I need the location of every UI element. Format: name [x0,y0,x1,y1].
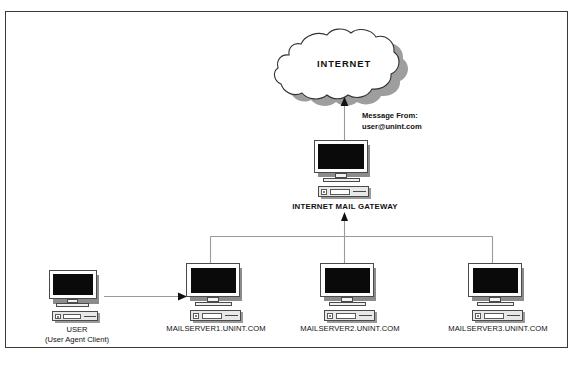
monitor-screen [473,268,518,293]
message-annotation: Message From: user@unint.com [362,110,422,132]
node-internet-mail-gateway [313,140,377,196]
tower-detail-line [353,191,366,192]
message-annotation-line1: Message From: [362,110,422,121]
label-internet-mail-gateway: INTERNET MAIL GATEWAY [277,202,413,212]
monitor-base [329,302,366,306]
tower-detail-line [359,315,372,316]
monitor-screen [325,268,370,293]
computer-tower [472,310,523,321]
monitor-screen [191,268,236,293]
tower-detail-line [84,316,96,317]
message-annotation-line2: user@unint.com [362,121,422,132]
tower-drive-slot [63,314,81,319]
monitor-screen [53,274,93,295]
label-mailserver1: MAILSERVER1.UNINT.COM [157,324,275,333]
node-user [48,270,106,320]
node-mailserver1 [184,263,248,319]
computer-tower [324,310,375,321]
monitor-base [195,302,232,306]
monitor-base [477,302,514,306]
tower-detail-line [225,315,238,316]
tower-power-led [55,314,61,319]
connection-mailserver-bus [211,237,493,266]
monitor-bezel [314,140,368,173]
tower-power-led [193,313,199,319]
label-mailserver2: MAILSERVER2.UNINT.COM [291,324,409,333]
connection-bus-to-gateway [341,212,348,237]
label-user: USER [28,325,126,334]
connection-gateway-to-internet [341,97,349,141]
tower-drive-slot [330,189,350,195]
label-mailserver3: MAILSERVER3.UNINT.COM [439,324,557,333]
tower-detail-line [507,315,520,316]
connection-user-to-mailserver1 [104,293,187,301]
internet-cloud-label: INTERNET [284,58,404,69]
monitor-bezel [186,263,240,297]
monitor-base [323,178,360,182]
tower-drive-slot [336,313,356,319]
node-mailserver3 [466,263,530,319]
computer-tower [318,186,369,197]
monitor-bezel [468,263,522,297]
tower-drive-slot [484,313,504,319]
tower-drive-slot [202,313,222,319]
tower-power-led [327,313,333,319]
monitor-bezel [320,263,374,297]
monitor-bezel [49,270,97,299]
label-user-sublabel: (User Agent Client) [28,335,126,344]
monitor-base [56,303,89,307]
computer-tower [52,311,98,321]
monitor-screen [318,144,364,169]
computer-tower [190,310,241,321]
node-mailserver2 [318,263,382,319]
tower-power-led [321,189,327,195]
diagram-canvas: INTERNET Message From: user@unint.com IN… [0,0,575,370]
tower-power-led [475,313,481,319]
